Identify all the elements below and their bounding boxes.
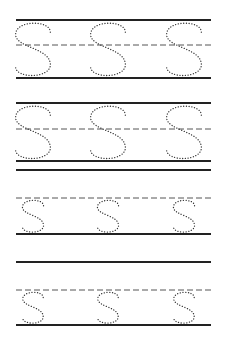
handwriting-worksheet [0,0,225,342]
dotted-letter-s [174,292,194,323]
dotted-letter-s [173,200,194,232]
dotted-letter-s [167,106,202,158]
dotted-letter-s [22,200,43,232]
dotted-letter-s [16,106,51,158]
dotted-letter-s [98,292,118,323]
dotted-letter-s [97,200,118,232]
dotted-letter-s [16,23,51,75]
dotted-letter-s [91,23,126,75]
dotted-letter-s [167,23,202,75]
dotted-letter-s [23,292,43,323]
dotted-letter-s [91,106,126,158]
